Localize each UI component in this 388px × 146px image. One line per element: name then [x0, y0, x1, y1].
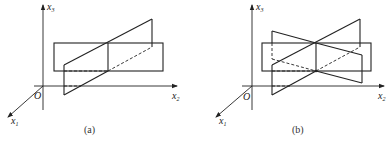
- x1-label: x1: [218, 115, 226, 127]
- axes-b: [216, 5, 384, 117]
- figure-canvas: x3 x2 x1 O (a) x3 x2 x1 O: [0, 0, 388, 146]
- x3-label: x3: [46, 1, 54, 13]
- caption-b: (b): [292, 124, 304, 136]
- x2-label: x2: [377, 90, 385, 102]
- panel-a: x3 x2 x1 O (a): [8, 1, 179, 136]
- x3-label: x3: [255, 1, 263, 13]
- intersection-point: [315, 70, 318, 73]
- caption-a: (a): [84, 124, 95, 136]
- x2-label: x2: [171, 90, 179, 102]
- origin-label: O: [34, 90, 41, 101]
- panel-b: x3 x2 x1 O (b): [216, 1, 385, 136]
- inclined-plane-falling: [272, 31, 362, 83]
- x1-label: x1: [10, 115, 18, 127]
- origin-label: O: [243, 91, 250, 102]
